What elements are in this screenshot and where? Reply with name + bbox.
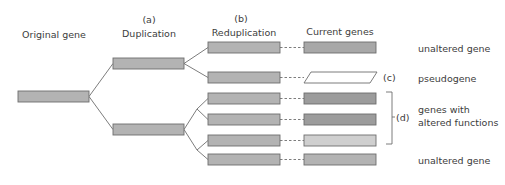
reduplication-gene-4 xyxy=(208,114,280,125)
current-gene-altered-2 xyxy=(304,114,376,125)
reduplication-gene-3 xyxy=(208,93,280,104)
reduplication-gene-6 xyxy=(208,154,280,165)
reduplication-gene-2 xyxy=(208,72,280,83)
current-gene-unaltered-bottom xyxy=(304,154,376,165)
label-altered-line1: genes with xyxy=(418,104,470,115)
label-unaltered-top: unaltered gene xyxy=(418,43,490,54)
duplication-gene-bottom xyxy=(113,124,184,135)
reduplication-gene-5 xyxy=(208,135,280,146)
pseudogene-marker: (c) xyxy=(383,72,396,83)
current-gene-altered-1 xyxy=(304,93,376,104)
label-pseudogene: pseudogene xyxy=(418,73,476,84)
dashed-connectors xyxy=(280,48,304,160)
reduplication-gene-1 xyxy=(208,42,280,53)
altered-functions-bracket xyxy=(386,92,392,144)
label-altered-line2: altered functions xyxy=(418,117,498,128)
duplication-gene-top xyxy=(113,58,184,69)
label-unaltered-bottom: unaltered gene xyxy=(418,155,490,166)
original-gene-box xyxy=(18,91,89,102)
current-gene-unaltered-top xyxy=(304,42,376,53)
current-gene-altered-3 xyxy=(304,135,376,146)
current-gene-pseudogene xyxy=(304,72,377,83)
altered-marker: (d) xyxy=(396,112,409,123)
